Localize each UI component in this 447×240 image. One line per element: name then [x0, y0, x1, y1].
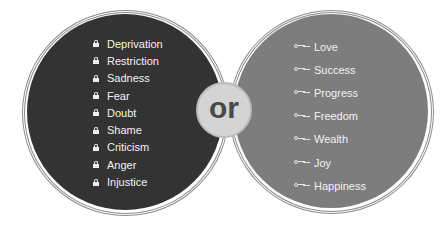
list-item: Doubt [93, 104, 163, 121]
item-label: Happiness [314, 180, 366, 192]
list-item: Anger [93, 156, 163, 173]
list-item: Progress [294, 81, 366, 104]
list-item: Sadness [93, 70, 163, 87]
key-icon [294, 183, 305, 189]
item-label: Injustice [107, 176, 147, 188]
list-item: Freedom [294, 105, 366, 128]
list-item: Joy [294, 151, 366, 174]
key-icon [294, 113, 305, 119]
item-label: Doubt [107, 107, 136, 119]
list-item: Love [294, 35, 366, 58]
item-label: Sadness [107, 72, 150, 84]
lock-icon [93, 92, 99, 99]
key-icon [294, 136, 305, 142]
lock-icon [93, 161, 99, 168]
key-icon [294, 90, 305, 96]
item-label: Fear [107, 90, 130, 102]
item-label: Joy [314, 157, 331, 169]
lock-icon [93, 179, 99, 186]
item-label: Criticism [107, 141, 149, 153]
list-item: Restriction [93, 52, 163, 69]
item-label: Deprivation [107, 38, 163, 50]
list-item: Criticism [93, 139, 163, 156]
list-item: Deprivation [93, 35, 163, 52]
positive-list: Love Success Progress Freedom Wealth Joy… [294, 35, 366, 197]
lock-icon [93, 144, 99, 151]
list-item: Success [294, 58, 366, 81]
lock-icon [93, 109, 99, 116]
lock-icon [93, 127, 99, 134]
item-label: Success [314, 64, 356, 76]
item-label: Love [314, 41, 338, 53]
lock-icon [93, 40, 99, 47]
or-label: or [209, 93, 239, 123]
item-label: Freedom [314, 110, 358, 122]
item-label: Restriction [107, 55, 159, 67]
list-item: Injustice [93, 173, 163, 190]
negative-list: Deprivation Restriction Sadness Fear Dou… [93, 35, 163, 191]
list-item: Fear [93, 87, 163, 104]
list-item: Wealth [294, 128, 366, 151]
item-label: Progress [314, 87, 358, 99]
item-label: Shame [107, 124, 142, 136]
key-icon [294, 44, 305, 50]
item-label: Wealth [314, 133, 348, 145]
lock-icon [93, 57, 99, 64]
item-label: Anger [107, 159, 136, 171]
list-item: Happiness [294, 174, 366, 197]
lock-icon [93, 75, 99, 82]
key-icon [294, 67, 305, 73]
or-badge: or [196, 82, 252, 138]
key-icon [294, 160, 305, 166]
list-item: Shame [93, 121, 163, 138]
